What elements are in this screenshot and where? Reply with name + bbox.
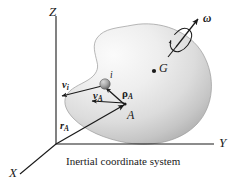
vector-r-a-subscript: A [64,124,69,133]
vector-r-a-label: rA [60,121,69,132]
z-axis-label: Z [49,5,56,18]
vector-rho-a-label: ρA [122,88,133,100]
particle-i-label: i [110,71,113,81]
point-a-label: A [127,109,134,121]
point-g-label: G [159,62,168,74]
x-axis-label: X [9,166,17,179]
y-axis-label: Y [219,136,226,149]
x-axis-line [20,144,56,174]
vector-v-a-subscript: A [98,94,103,103]
vector-v-i-label: vi [62,80,69,91]
vector-rho-a-subscript: A [128,92,133,101]
omega-label: ω [203,13,211,25]
point-a-dot [123,102,126,105]
figure-caption: Inertial coordinate system [66,156,180,167]
particle-i-sphere [100,79,110,89]
vector-v-a-label: vA [93,91,103,102]
vector-v-i-subscript: i [67,83,69,92]
rigid-body-kinematics-figure: Z Y X A G i vi vA ρA rA ω Inertial coord… [0,0,237,186]
point-g-dot [152,69,156,73]
